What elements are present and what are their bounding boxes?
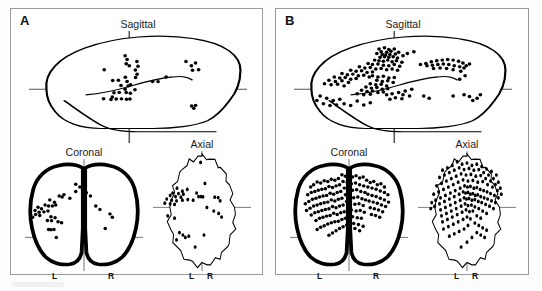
activation-focus	[385, 68, 389, 71]
activation-focus	[50, 219, 54, 222]
activation-focus	[334, 80, 338, 83]
activation-focus	[372, 180, 376, 183]
activation-focus	[352, 222, 356, 225]
activation-focus	[459, 186, 462, 190]
activation-focus	[349, 68, 353, 71]
activation-focus	[360, 217, 364, 220]
activation-focus	[362, 93, 366, 96]
activation-focus	[475, 186, 478, 190]
activation-focus	[305, 209, 309, 212]
activation-focus	[332, 75, 336, 78]
activation-focus	[338, 204, 342, 207]
activation-focus	[458, 77, 462, 80]
activation-focus	[488, 204, 491, 208]
activation-focus	[47, 204, 51, 207]
activation-focus	[126, 84, 130, 87]
activation-focus	[439, 208, 442, 212]
activation-focus	[347, 188, 351, 191]
activation-focus	[318, 217, 322, 220]
activation-focus	[309, 191, 313, 194]
activation-focus	[444, 194, 447, 198]
activation-focus	[499, 186, 502, 190]
activation-focus	[312, 183, 316, 186]
activation-focus	[78, 185, 82, 188]
activation-focus	[336, 82, 340, 85]
activation-focus	[335, 103, 339, 106]
activation-focus	[324, 208, 328, 211]
activation-focus	[48, 198, 52, 201]
activation-focus	[470, 203, 473, 207]
activation-focus	[330, 177, 334, 180]
activation-focus	[323, 82, 327, 85]
activation-focus	[459, 70, 463, 73]
activation-focus	[376, 62, 380, 65]
activation-focus	[367, 199, 371, 202]
activation-focus	[382, 75, 386, 78]
activation-focus	[181, 233, 184, 237]
activation-focus	[470, 198, 473, 202]
activation-focus	[340, 79, 344, 82]
activation-focus	[370, 213, 374, 216]
activation-focus	[368, 206, 372, 209]
activation-focus	[333, 179, 337, 182]
activation-focus	[383, 198, 387, 201]
activation-focus	[479, 174, 482, 178]
axis-label-right-coronal: R	[373, 272, 379, 281]
activation-focus	[464, 202, 467, 206]
activation-focus	[463, 168, 466, 172]
activation-focus	[354, 70, 358, 73]
activation-focus	[472, 168, 475, 172]
activation-focus	[446, 58, 450, 61]
activation-focus	[448, 171, 451, 175]
activation-focus	[339, 190, 343, 193]
activation-focus	[349, 104, 353, 107]
activation-focus	[389, 49, 393, 52]
activation-focus	[352, 196, 356, 199]
activation-focus	[464, 191, 467, 195]
activation-focus	[465, 208, 468, 212]
activation-focus	[376, 183, 380, 186]
activation-focus	[135, 60, 139, 63]
activation-focus	[364, 198, 368, 201]
activation-focus	[438, 66, 442, 69]
activation-focus	[34, 213, 38, 216]
activation-focus	[400, 61, 404, 64]
activation-focus	[345, 223, 349, 226]
activation-focus	[475, 214, 478, 218]
activation-focus	[306, 193, 310, 196]
activation-focus	[124, 62, 128, 65]
activation-focus	[344, 175, 348, 178]
activation-focus	[329, 83, 333, 86]
activation-focus	[360, 89, 364, 92]
activation-focus	[351, 215, 355, 218]
activation-focus	[324, 187, 328, 190]
activation-focus	[331, 186, 335, 189]
brain-axial-projection	[418, 151, 516, 271]
activation-focus	[461, 162, 464, 166]
activation-focus	[373, 58, 377, 61]
activation-focus	[163, 201, 166, 205]
activation-focus	[344, 217, 348, 220]
activation-focus	[469, 185, 472, 189]
activation-focus	[319, 181, 323, 184]
activation-focus	[445, 179, 448, 183]
activation-focus	[202, 195, 205, 199]
activation-focus	[368, 101, 372, 104]
activation-focus	[363, 191, 367, 194]
activation-focus	[442, 227, 445, 231]
activation-focus	[85, 191, 89, 194]
activation-focus	[363, 210, 367, 213]
activation-focus	[169, 194, 172, 198]
activation-focus	[38, 214, 42, 217]
activation-focus	[184, 60, 188, 63]
activation-focus	[355, 92, 359, 95]
activation-focus	[186, 198, 189, 202]
activation-focus	[356, 195, 360, 198]
activation-focus	[315, 180, 319, 183]
activation-focus	[388, 98, 392, 101]
activation-focus	[445, 67, 449, 70]
activation-focus	[334, 206, 338, 209]
activation-focus	[382, 90, 386, 93]
activation-focus	[427, 96, 431, 99]
activation-focus	[377, 208, 381, 211]
